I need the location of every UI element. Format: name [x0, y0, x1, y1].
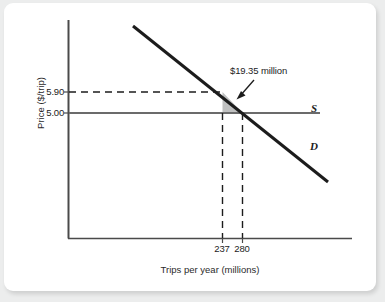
x-axis-title: Trips per year (millions) [68, 264, 352, 275]
y-axis-title: Price ($/trip) [35, 73, 51, 133]
supply-curve-label: S [311, 102, 317, 114]
supply-demand-chart [0, 0, 385, 302]
demand-curve-label: D [310, 140, 318, 152]
deadweight-loss-annotation-label: $19.35 million [230, 65, 287, 76]
demand-curve [133, 26, 328, 182]
annotation-arrow-head [237, 91, 246, 100]
x-axis-tick-label-280: 280 [226, 243, 258, 254]
y-axis-tick-label-500: 5.00 [30, 107, 64, 118]
y-axis-tick-label-590: 5.90 [30, 86, 64, 97]
